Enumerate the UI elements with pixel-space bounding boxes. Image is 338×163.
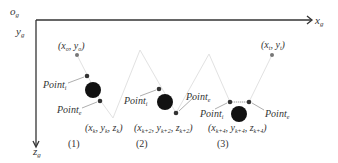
- exit-label-1: Pointe: [56, 104, 82, 116]
- stage-2-caption: (2): [136, 138, 148, 150]
- target-point-label: (xt, yt): [261, 39, 286, 51]
- start-point: [75, 53, 79, 57]
- exit-arrow-3: [252, 103, 264, 110]
- stage-3-caption: (3): [217, 138, 229, 150]
- entry-label-1: Pointi: [42, 79, 67, 91]
- target-point: [270, 53, 274, 57]
- entry-point-2: [157, 87, 162, 92]
- exit-label-3: Pointe: [264, 108, 290, 120]
- obstacle-2: [157, 94, 173, 110]
- z-axis-label: zg: [32, 145, 41, 159]
- entry-label-3: Pointi: [199, 108, 224, 120]
- exit-arrow-1: [82, 102, 97, 108]
- stage-1-coord: (xk, yk, zk): [85, 122, 123, 134]
- stage-1: Pointi Pointe (xk, yk, zk) (1): [42, 74, 123, 150]
- stage-3-coord: (xk+4, yk+4, zk+4): [208, 122, 267, 134]
- obstacle-3: [231, 106, 247, 122]
- x-axis-label: xg: [314, 14, 324, 28]
- stage-3: Pointi Pointe (xk+4, yk+4, zk+4) (3): [199, 100, 290, 150]
- entry-arrow-1: [68, 77, 84, 83]
- exit-point-3: [247, 100, 252, 105]
- entry-point-3: [228, 100, 233, 105]
- y-axis-label: yg: [15, 25, 25, 39]
- exit-point-2: [174, 111, 179, 116]
- stage-1-caption: (1): [68, 138, 80, 150]
- entry-label-2: Pointi: [123, 95, 148, 107]
- exit-label-2: Pointe: [185, 91, 211, 103]
- exit-point-1: [98, 99, 103, 104]
- start-point-label: (xo, yo): [58, 40, 85, 52]
- stage-2: Pointi Pointe (xk+2, yk+2, zk+2) (2): [123, 87, 211, 150]
- trajectory-diagram: og yg xg zg (xo, yo) (xt, yt) Pointi Poi…: [0, 0, 338, 163]
- entry-point-1: [85, 74, 90, 79]
- origin-label: og: [10, 5, 20, 19]
- stage-2-coord: (xk+2, yk+2, zk+2): [134, 122, 193, 134]
- obstacle-1: [85, 82, 101, 98]
